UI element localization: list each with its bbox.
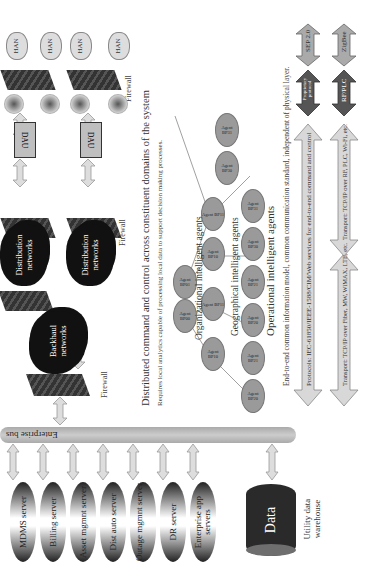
proprietary-protocol-label: Proprietary protocol bbox=[302, 74, 312, 104]
han-label: HAN bbox=[76, 33, 84, 59]
footer-text: End-to-end common information model, com… bbox=[282, 67, 291, 386]
meter-icon bbox=[40, 94, 60, 114]
subheadline: Requires local analytics capable of proc… bbox=[156, 140, 164, 406]
agent-node: Agent BP21 bbox=[241, 265, 265, 299]
backhaul-cloud: Backhaul networks bbox=[30, 311, 86, 371]
protocols-arrow-label: Protocols: IEC-61850/IEEE-1588/CIM/Web s… bbox=[305, 132, 313, 386]
sep-label: SEP 2.0 bbox=[304, 30, 312, 52]
agent-node: Agent BP20 bbox=[241, 379, 265, 413]
meter-icon bbox=[108, 94, 128, 114]
han-label: HAN bbox=[46, 33, 54, 59]
distribution-cloud-2: Distribution networks bbox=[66, 224, 114, 286]
server-outage-mgmnt: Outage mgmnt server bbox=[130, 482, 156, 562]
han-cloud: HAN bbox=[108, 32, 130, 60]
han-cloud: HAN bbox=[40, 32, 62, 60]
distribution-label: Distribution networks bbox=[14, 230, 34, 280]
server-dr: DR server bbox=[160, 482, 186, 562]
dau-box-2: DAU bbox=[80, 122, 102, 158]
server-label: Enterprise app servers bbox=[194, 492, 212, 552]
server-label: Outage mgmnt server bbox=[135, 482, 144, 562]
server-label: Billing server bbox=[49, 482, 58, 562]
agent-node: Agent BP31 bbox=[241, 189, 265, 223]
geographical-agents-label: Geographical intelligent agents bbox=[230, 217, 240, 336]
agent-node: Agent BP20 bbox=[241, 303, 265, 337]
diagram-frame: MDMS server Billing server Asset mgmnt s… bbox=[0, 0, 366, 576]
server-billing: Billing server bbox=[40, 482, 66, 562]
agent-node: Agent BP31 bbox=[215, 113, 239, 147]
server-label: Dist auto server bbox=[109, 482, 118, 562]
agent-node: Agent BP10 bbox=[201, 237, 225, 271]
firewall-6 bbox=[66, 70, 121, 90]
server-mdms: MDMS server bbox=[10, 482, 36, 562]
distribution-label: Distribution networks bbox=[80, 230, 100, 280]
han-cloud: HAN bbox=[6, 32, 28, 60]
server-label: MDMS server bbox=[19, 482, 28, 562]
transport-left-label: Transport: TCP/IP over Fiber, MW, WiMAX,… bbox=[341, 243, 348, 386]
meter-icon bbox=[4, 94, 24, 114]
protocol-arrows bbox=[292, 6, 366, 406]
han-label: HAN bbox=[12, 33, 20, 59]
server-column: MDMS server Billing server Asset mgmnt s… bbox=[10, 482, 220, 562]
firewall-5 bbox=[0, 70, 55, 90]
firewall-1 bbox=[26, 374, 90, 396]
data-warehouse-caption: Utility data warehouse bbox=[302, 484, 322, 554]
han-cloud: HAN bbox=[70, 32, 92, 60]
enterprise-bus: Enterprise bus bbox=[0, 427, 296, 443]
han-label: HAN bbox=[114, 33, 122, 59]
transport-right-label: Transport: TCP/IP over RF, PLC, Wi-Fi, e… bbox=[341, 124, 348, 240]
agent-node: Agent BP30 bbox=[215, 151, 239, 185]
headline: Distributed command and control across c… bbox=[140, 90, 151, 406]
backhaul-label: Backhaul networks bbox=[48, 317, 68, 365]
server-dist-auto: Dist auto server bbox=[100, 482, 126, 562]
server-asset-mgmnt: Asset mgmnt server bbox=[70, 482, 96, 562]
firewall-label: Firewall bbox=[118, 219, 127, 246]
organizational-agents-label: Organizational intelligent agents bbox=[194, 216, 204, 340]
data-warehouse-cylinder: Data bbox=[246, 484, 296, 556]
firewall-2 bbox=[0, 291, 54, 311]
agent-node: Agent BP10 bbox=[201, 337, 225, 371]
agent-node: Agent BP11 bbox=[201, 197, 225, 231]
data-label: Data bbox=[263, 484, 279, 556]
distribution-cloud-1: Distribution networks bbox=[0, 224, 48, 286]
rfplc-label: RF/PLC bbox=[340, 79, 348, 102]
agent-node: Agent BP11 bbox=[201, 287, 225, 321]
firewall-label: Firewall bbox=[100, 371, 109, 398]
dau-box-1: DAU bbox=[14, 122, 36, 158]
enterprise-bus-label: Enterprise bus bbox=[6, 430, 58, 440]
agent-node: Agent BP21 bbox=[241, 341, 265, 375]
server-enterprise-app: Enterprise app servers bbox=[190, 482, 216, 562]
server-label: Asset mgmnt server bbox=[79, 482, 88, 562]
operational-agents-label: Operational intelligent agents bbox=[264, 206, 276, 336]
zigbee-label: ZigBee bbox=[340, 31, 348, 52]
server-label: DR server bbox=[169, 482, 178, 562]
meter-icon bbox=[70, 94, 90, 114]
agent-node: Agent BP30 bbox=[241, 227, 265, 261]
